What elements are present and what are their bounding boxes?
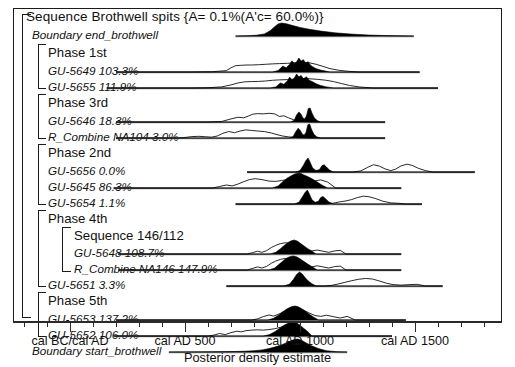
axis-tick-minor <box>93 321 94 327</box>
axis-tick-minor <box>392 321 393 327</box>
axis-tick-minor <box>162 321 163 327</box>
bracket-sequence-146-112 <box>62 227 71 272</box>
axis-tick-major <box>415 321 416 332</box>
bracket-phase-2nd <box>38 144 46 205</box>
x-axis-title: Posterior density estimate <box>0 350 515 365</box>
axis-tick-minor <box>254 321 255 327</box>
axis-tick-major <box>70 321 71 332</box>
axis-tick-minor <box>208 321 209 327</box>
axis-tick-major <box>185 321 186 332</box>
axis-tick-minor <box>116 321 117 327</box>
group-label-phase-5th: Phase 5th <box>48 294 107 307</box>
bracket-phase-5th <box>38 292 46 337</box>
row-label-gu-5649: GU-5649 103.3% <box>48 65 138 77</box>
group-label-phase-3rd: Phase 3rd <box>48 96 108 109</box>
group-label-phase-4th: Phase 4th <box>48 212 107 225</box>
group-label-sequence-146-112: Sequence 146/112 <box>74 229 184 242</box>
axis-tick-minor <box>369 321 370 327</box>
axis-tick-minor <box>231 321 232 327</box>
axis-tick-minor <box>139 321 140 327</box>
axis-tick-minor <box>277 321 278 327</box>
axis-tick-minor <box>461 321 462 327</box>
page-title: Sequence Brothwell spits {A= 0.1%(A'c= 6… <box>26 9 324 24</box>
axis-tick-label: cal BC/cal AD <box>32 334 109 348</box>
bracket-phase-3rd <box>38 94 46 139</box>
axis-tick-label: cal AD 1500 <box>381 334 449 348</box>
bracket-phase-4th <box>38 210 46 287</box>
row-label-gu-5646: GU-5646 18.3% <box>48 115 132 127</box>
axis-tick-label: cal AD 1000 <box>266 334 334 348</box>
group-label-phase-1st: Phase 1st <box>48 46 107 59</box>
bracket-phase-1st <box>38 44 46 89</box>
axis-tick-major <box>300 321 301 332</box>
axis-tick-minor <box>346 321 347 327</box>
axis-tick-minor <box>438 321 439 327</box>
row-label-gu-5648: GU-5648 108.7% <box>74 247 164 259</box>
row-label-gu-5651: GU-5651 3.3% <box>48 279 125 291</box>
row-label-boundary-end: Boundary end_brothwell <box>32 29 158 41</box>
bracket-sequence-brothwell <box>22 14 31 318</box>
oxcal-plot: Sequence Brothwell spits {A= 0.1%(A'c= 6… <box>0 0 515 367</box>
row-label-gu-5645: GU-5645 86.3% <box>48 181 132 193</box>
axis-tick-minor <box>47 321 48 327</box>
axis-tick-minor <box>323 321 324 327</box>
axis-tick-minor <box>484 321 485 327</box>
row-label-r-combine-na146: R_Combine NA146 147.9% <box>74 263 218 275</box>
row-label-gu-5655: GU-5655 111.9% <box>48 81 137 93</box>
row-label-gu-5656: GU-5656 0.0% <box>48 165 125 177</box>
axis-tick-label: cal AD 500 <box>155 334 216 348</box>
axis-tick-minor <box>24 321 25 327</box>
x-axis-line <box>13 321 502 323</box>
row-label-r-combine-na104: R_Combine NA104 3.0% <box>48 131 179 143</box>
group-label-phase-2nd: Phase 2nd <box>48 146 111 159</box>
row-label-gu-5654: GU-5654 1.1% <box>48 197 125 209</box>
